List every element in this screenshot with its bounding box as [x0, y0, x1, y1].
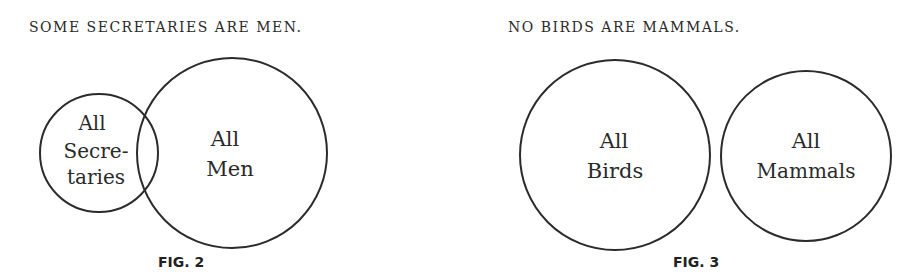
venn-diagrams: All Secre- taries All Men All Birds All … [0, 0, 913, 276]
mammals-circle [721, 71, 891, 241]
secretaries-label-line1: All [77, 111, 105, 135]
mammals-label-line2: Mammals [757, 159, 856, 183]
birds-circle [520, 60, 710, 250]
secretaries-label-line2: Secre- [64, 139, 129, 163]
fig3-caption: FIG. 3 [673, 254, 719, 270]
birds-label-line1: All [599, 129, 629, 153]
men-circle [137, 58, 327, 248]
fig3-diagram: All Birds All Mammals [520, 60, 891, 250]
men-label-line1: All [210, 127, 240, 151]
mammals-label-line1: All [791, 129, 821, 153]
birds-label-line2: Birds [587, 159, 643, 183]
fig2-caption: FIG. 2 [158, 254, 204, 270]
secretaries-label-line3: taries [67, 165, 125, 189]
men-label-line2: Men [206, 157, 253, 181]
fig2-diagram: All Secre- taries All Men [40, 58, 327, 248]
